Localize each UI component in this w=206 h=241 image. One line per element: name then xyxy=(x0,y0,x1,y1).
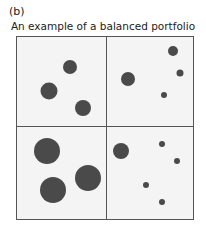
horizontal-divider xyxy=(17,126,193,127)
portfolio-bubble xyxy=(41,83,58,100)
portfolio-bubble xyxy=(143,182,149,188)
portfolio-bubble xyxy=(121,72,135,86)
portfolio-bubble xyxy=(40,177,66,203)
portfolio-bubble xyxy=(113,143,129,159)
portfolio-bubble xyxy=(34,138,60,164)
portfolio-bubble xyxy=(159,141,165,147)
figure-label: (b) xyxy=(9,5,25,18)
vertical-divider xyxy=(106,37,107,219)
portfolio-bubble xyxy=(168,46,178,56)
portfolio-bubble xyxy=(63,60,77,74)
portfolio-bubble xyxy=(177,70,184,77)
portfolio-bubble xyxy=(159,199,165,205)
portfolio-bubble xyxy=(75,100,91,116)
portfolio-bubble xyxy=(161,92,167,98)
portfolio-bubble xyxy=(174,158,180,164)
figure-title: An example of a balanced portfolio xyxy=(0,20,206,32)
portfolio-bubble xyxy=(75,165,101,191)
